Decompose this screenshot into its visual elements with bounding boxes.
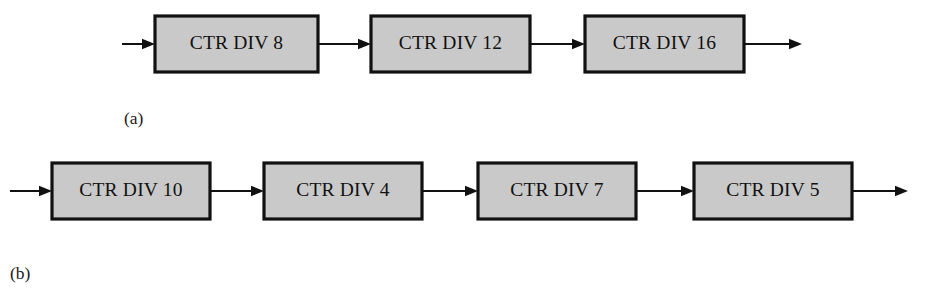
- panel-2-connector-arrow-2-head: [465, 186, 478, 196]
- panel-1-output-arrow-head: [789, 39, 802, 49]
- counter-block[interactable]: CTR DIV 10: [52, 163, 210, 219]
- panel-2-connector-arrow-1-head: [251, 186, 264, 196]
- counter-block[interactable]: CTR DIV 8: [155, 16, 318, 72]
- panel-caption: (b): [10, 263, 31, 283]
- counter-block[interactable]: CTR DIV 4: [264, 163, 422, 219]
- counter-block-label: CTR DIV 16: [613, 32, 717, 53]
- panel-2-output-arrow: [852, 186, 908, 196]
- panel-2-input-arrow-head: [39, 186, 52, 196]
- counter-block-label: CTR DIV 8: [190, 32, 284, 53]
- panel-1: CTR DIV 8CTR DIV 12CTR DIV 16: [122, 16, 802, 72]
- panel-2-connector-arrow-3-head: [681, 186, 694, 196]
- counter-block[interactable]: CTR DIV 12: [371, 16, 530, 72]
- panel-1-input-arrow: [122, 39, 155, 49]
- counter-block-label: CTR DIV 7: [510, 179, 604, 200]
- panel-2-output-arrow-head: [895, 186, 908, 196]
- counter-block[interactable]: CTR DIV 16: [585, 16, 744, 72]
- counter-chain-diagram: CTR DIV 8CTR DIV 12CTR DIV 16(a)CTR DIV …: [0, 0, 931, 304]
- counter-block[interactable]: CTR DIV 5: [694, 163, 852, 219]
- panel-1-connector-arrow-2-head: [572, 39, 585, 49]
- panel-1-output-arrow: [744, 39, 802, 49]
- counter-block[interactable]: CTR DIV 7: [478, 163, 636, 219]
- panel-2: CTR DIV 10CTR DIV 4CTR DIV 7CTR DIV 5: [10, 163, 908, 219]
- counter-block-label: CTR DIV 5: [726, 179, 820, 200]
- panel-1-connector-arrow-1-head: [358, 39, 371, 49]
- panel-1-connector-arrow-2: [530, 39, 585, 49]
- panel-caption: (a): [124, 108, 144, 128]
- panel-1-input-arrow-head: [142, 39, 155, 49]
- panel-1-connector-arrow-1: [318, 39, 371, 49]
- panel-2-connector-arrow-1: [210, 186, 264, 196]
- panel-2-connector-arrow-2: [422, 186, 478, 196]
- counter-block-label: CTR DIV 12: [399, 32, 502, 53]
- counter-block-label: CTR DIV 4: [296, 179, 390, 200]
- panel-2-connector-arrow-3: [636, 186, 694, 196]
- figure-canvas: CTR DIV 8CTR DIV 12CTR DIV 16(a)CTR DIV …: [0, 0, 931, 304]
- panel-2-input-arrow: [10, 186, 52, 196]
- counter-block-label: CTR DIV 10: [79, 179, 182, 200]
